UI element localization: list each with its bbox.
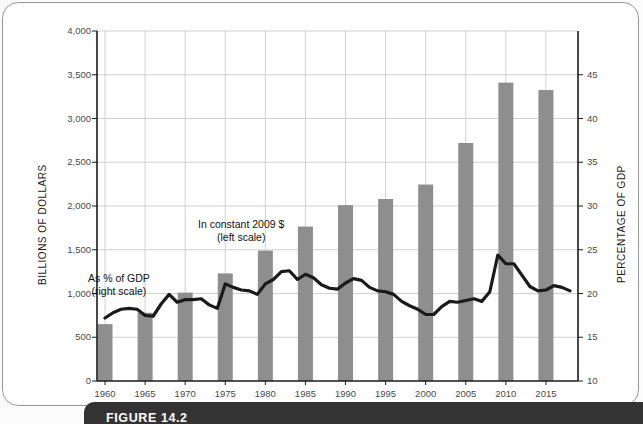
tick-label: 15 [587,331,611,342]
tick-label: 45 [587,69,611,80]
bar [298,227,313,381]
tick-label: 10 [587,375,611,386]
tick-label: 3,000 [33,113,91,124]
line-annotation-line-2: (right scale) [88,285,150,298]
line-series-annotation: As % of GDP (right scale) [88,272,150,298]
tick-label: 1,500 [33,244,91,255]
chart-container: BILLIONS OF DOLLARS PERCENTAGE OF GDP 05… [0,0,643,424]
tick-label: 2,000 [33,200,91,211]
bar [418,185,433,381]
bar [338,205,353,381]
figure-caption-text: FIGURE 14.2 [106,411,188,424]
tick-label: 2015 [526,388,566,399]
bar-series [98,83,554,381]
tick-label: 35 [587,156,611,167]
tick-label: 1980 [245,388,285,399]
tick-label: 25 [587,244,611,255]
tick-label: 0 [33,375,91,386]
tick-label: 1985 [285,388,325,399]
tick-label: 1975 [205,388,245,399]
bar-annotation-line-1: In constant 2009 $ [198,218,284,231]
tick-label: 1995 [366,388,406,399]
tick-label: 20 [587,288,611,299]
figure-caption-bar: FIGURE 14.2 [84,402,643,424]
tick-label: 1990 [326,388,366,399]
tick-label: 30 [587,200,611,211]
tick-label: 500 [33,331,91,342]
tick-label: 40 [587,113,611,124]
bar [538,90,553,381]
tick-label: 4,000 [33,25,91,36]
bar [178,293,193,381]
bar [218,273,233,381]
bar [498,83,513,381]
tick-label: 1960 [85,388,125,399]
tick-label: 1970 [165,388,205,399]
tick-label: 1,000 [33,288,91,299]
tick-label: 2005 [446,388,486,399]
right-axis-title: PERCENTAGE OF GDP [616,165,627,283]
tick-label: 3,500 [33,69,91,80]
tick-label: 1965 [125,388,165,399]
chart-plot [0,0,643,424]
tick-label: 2,500 [33,156,91,167]
tick-label: 2010 [486,388,526,399]
bar-annotation-line-2: (left scale) [198,231,284,244]
tick-label: 2000 [406,388,446,399]
bar [458,143,473,381]
bar-series-annotation: In constant 2009 $ (left scale) [198,218,284,244]
left-axis-title: BILLIONS OF DOLLARS [37,164,48,285]
bar [98,324,113,381]
bar [258,251,273,381]
line-annotation-line-1: As % of GDP [88,272,150,285]
bar [138,313,153,381]
